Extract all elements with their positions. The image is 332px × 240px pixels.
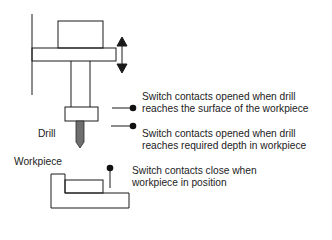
crossbar bbox=[32, 48, 116, 61]
motor-box bbox=[58, 21, 103, 48]
switch-3-label-line2: workpiece in position bbox=[132, 177, 227, 189]
workpiece bbox=[65, 180, 103, 193]
switch-2-label-line1: Switch contacts opened when drill bbox=[142, 128, 295, 140]
drill-bit bbox=[76, 121, 84, 148]
switch-3-contact-icon bbox=[107, 165, 114, 172]
fixture bbox=[51, 174, 129, 208]
switch-2-contact-icon bbox=[130, 123, 137, 130]
chuck bbox=[65, 107, 98, 121]
switch-1-label-line1: Switch contacts opened when drill bbox=[142, 91, 295, 103]
workpiece-label: Workpiece bbox=[14, 156, 62, 168]
drill-label: Drill bbox=[38, 128, 56, 140]
switch-1-label-line2: reaches the surface of the workpiece bbox=[142, 103, 309, 115]
switch-2-label-line2: reaches required depth in workpiece bbox=[142, 140, 306, 152]
switch-1-contact-icon bbox=[130, 105, 137, 112]
switch-3-label-line1: Switch contacts close when bbox=[132, 165, 257, 177]
double-arrow-vertical-icon bbox=[117, 37, 127, 73]
